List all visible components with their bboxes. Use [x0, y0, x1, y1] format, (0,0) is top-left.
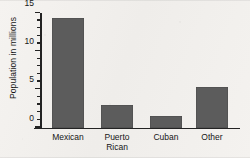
y-tick-major — [35, 12, 40, 13]
y-tick-minor — [37, 42, 40, 43]
plot-area: 051015 — [40, 10, 240, 129]
x-tick-label-line: Rican — [82, 142, 152, 152]
y-tick-minor — [37, 19, 40, 20]
x-tick-label: Other — [177, 132, 247, 142]
bar — [196, 87, 228, 127]
y-tick-minor — [37, 80, 40, 81]
y-tick-major — [35, 50, 40, 51]
x-tick-label-line: Other — [177, 132, 247, 142]
y-tick-minor — [37, 96, 40, 97]
scan-edge-bottom — [0, 157, 250, 158]
y-tick-minor — [37, 111, 40, 112]
bar-chart: Population in millions 051015 MexicanPue… — [0, 0, 250, 158]
x-axis-line — [34, 128, 240, 130]
y-tick-label: 0 — [29, 113, 34, 123]
y-tick-minor — [37, 73, 40, 74]
y-tick-major — [35, 88, 40, 89]
y-tick-minor — [37, 27, 40, 28]
y-tick-minor — [37, 35, 40, 36]
bar — [150, 116, 182, 127]
y-axis-line — [40, 13, 42, 129]
bar — [52, 18, 84, 127]
y-tick-minor — [37, 103, 40, 104]
y-tick-label: 5 — [29, 74, 34, 84]
y-tick-minor — [37, 58, 40, 59]
y-tick-minor — [37, 119, 40, 120]
y-tick-label: 15 — [25, 0, 34, 8]
bar — [101, 105, 133, 127]
scan-edge-top — [0, 0, 250, 1]
y-tick-label: 10 — [25, 36, 34, 46]
y-tick-major — [35, 126, 40, 127]
y-tick-minor — [37, 65, 40, 66]
y-axis-title: Population in millions — [8, 0, 18, 118]
